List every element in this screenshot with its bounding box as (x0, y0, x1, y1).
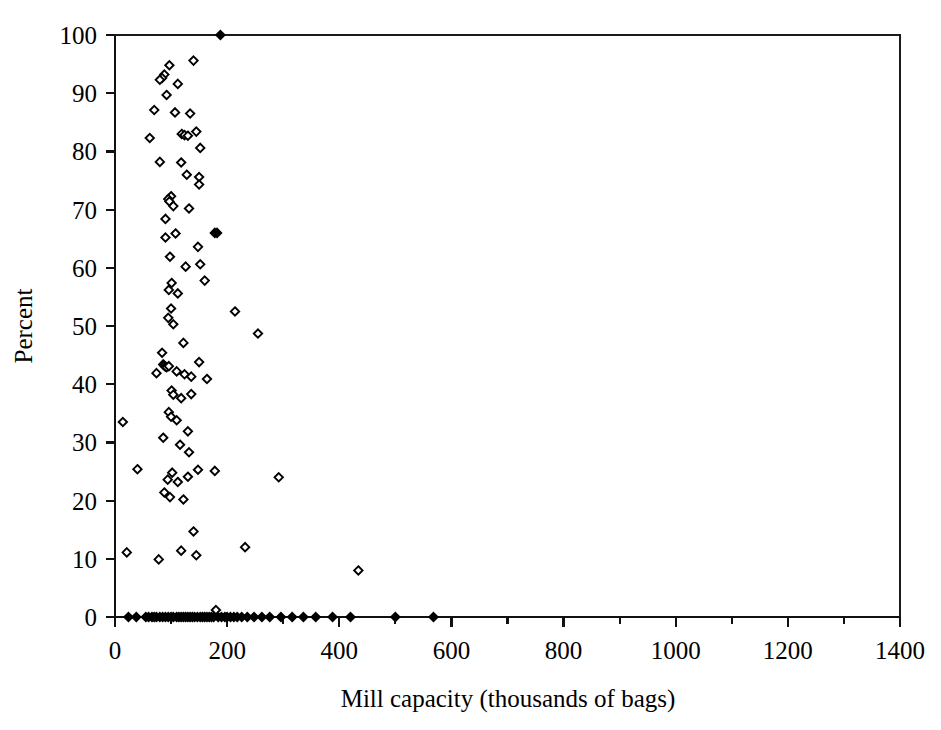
x-tick-label: 1400 (875, 637, 925, 664)
data-point (312, 613, 320, 621)
data-point (161, 233, 169, 241)
x-tick-label: 1200 (763, 637, 813, 664)
data-point (299, 613, 307, 621)
data-point (179, 339, 187, 347)
data-point (176, 441, 184, 449)
data-point (184, 473, 192, 481)
data-point (119, 418, 127, 426)
y-axis-title: Percent (10, 288, 37, 363)
x-tick-label: 400 (321, 637, 359, 664)
data-point (186, 109, 194, 117)
data-point (177, 158, 185, 166)
data-point (189, 527, 197, 535)
y-tick-label: 50 (72, 313, 97, 340)
data-point (165, 61, 173, 69)
data-point (275, 473, 283, 481)
data-point (185, 448, 193, 456)
data-point (194, 466, 202, 474)
data-point (183, 170, 191, 178)
data-point (174, 478, 182, 486)
data-point (158, 349, 166, 357)
x-tick-label: 200 (208, 637, 246, 664)
data-point (196, 260, 204, 268)
data-point (177, 546, 185, 554)
data-point (211, 467, 219, 475)
data-point (181, 262, 189, 270)
y-tick-label: 10 (72, 546, 97, 573)
y-tick-label: 30 (72, 429, 97, 456)
scatter-chart-figure: 0102030405060708090100020040060080010001… (0, 0, 941, 730)
data-point (159, 434, 167, 442)
data-point (161, 215, 169, 223)
data-point (328, 613, 336, 621)
data-point (123, 548, 131, 556)
data-point (216, 31, 224, 39)
y-tick-label: 80 (72, 138, 97, 165)
data-point (167, 304, 175, 312)
y-tick-label: 70 (72, 197, 97, 224)
data-point (184, 427, 192, 435)
y-tick-label: 60 (72, 255, 97, 282)
data-point (156, 158, 164, 166)
data-point (196, 144, 204, 152)
plot-frame (115, 35, 900, 617)
data-points-group (119, 31, 438, 621)
data-point (132, 613, 140, 621)
data-point (203, 375, 211, 383)
y-tick-label: 20 (72, 488, 97, 515)
y-tick-label: 100 (60, 22, 98, 49)
data-point (169, 320, 177, 328)
ticks-group (106, 35, 900, 627)
data-point (166, 253, 174, 261)
data-point (195, 180, 203, 188)
data-point (164, 475, 172, 483)
data-point (168, 468, 176, 476)
data-point (187, 390, 195, 398)
data-point (192, 551, 200, 559)
data-point (192, 127, 200, 135)
y-tick-label: 0 (85, 604, 98, 631)
data-point (391, 613, 399, 621)
data-point (288, 613, 296, 621)
chart-canvas: 0102030405060708090100020040060080010001… (0, 0, 941, 730)
data-point (346, 613, 354, 621)
data-point (195, 358, 203, 366)
data-point (266, 613, 274, 621)
data-point (164, 314, 172, 322)
x-axis-title: Mill capacity (thousands of bags) (341, 685, 676, 713)
axes-group (115, 35, 900, 617)
data-point (152, 369, 160, 377)
data-point (354, 566, 362, 574)
x-tick-label: 0 (109, 637, 122, 664)
data-point (241, 543, 249, 551)
data-point (185, 204, 193, 212)
data-point (254, 329, 262, 337)
data-point (179, 495, 187, 503)
data-point (146, 134, 154, 142)
data-point (171, 108, 179, 116)
data-point (201, 276, 209, 284)
data-point (231, 307, 239, 315)
y-tick-label: 90 (72, 80, 97, 107)
data-point (133, 465, 141, 473)
x-tick-label: 1000 (651, 637, 701, 664)
data-point (194, 243, 202, 251)
data-point (174, 289, 182, 297)
data-point (155, 555, 163, 563)
data-point (174, 80, 182, 88)
x-tick-label: 800 (545, 637, 583, 664)
y-tick-label: 40 (72, 371, 97, 398)
data-point (429, 613, 437, 621)
data-point (171, 229, 179, 237)
data-point (189, 56, 197, 64)
data-point (162, 91, 170, 99)
x-tick-label: 600 (433, 637, 471, 664)
axis-lines (115, 35, 900, 617)
data-point (150, 106, 158, 114)
